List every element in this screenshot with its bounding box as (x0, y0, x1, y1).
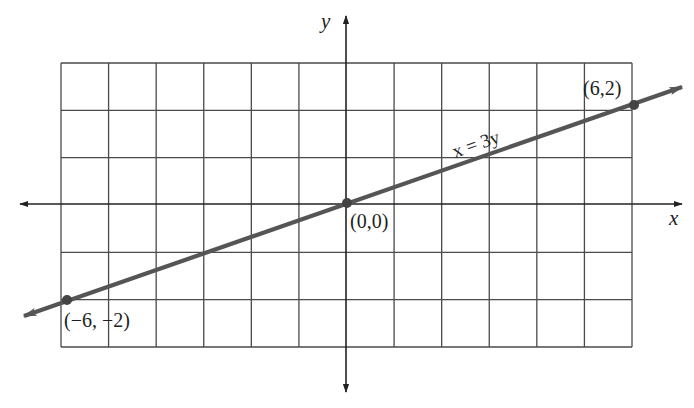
coordinate-plane-figure: y x (0,0) (6,2) (−6, −2) x = 3y (0, 0, 694, 408)
x-axis-label: x (668, 206, 679, 230)
y-axis-label: y (319, 9, 331, 33)
point-6-2 (629, 100, 639, 110)
point-6-2-label: (6,2) (583, 77, 621, 100)
equation-label: x = 3y (449, 126, 502, 162)
point-origin-label: (0,0) (350, 210, 388, 233)
point-origin (342, 198, 352, 208)
point-neg6-neg2-label: (−6, −2) (64, 309, 130, 332)
point-neg6-neg2 (62, 295, 72, 305)
line-x-equals-3y (24, 87, 682, 316)
